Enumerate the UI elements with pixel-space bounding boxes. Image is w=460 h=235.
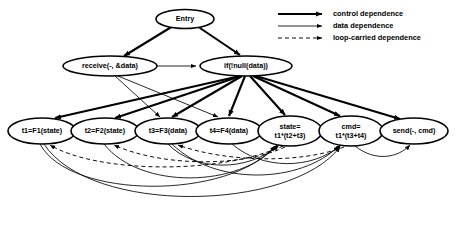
legend-item-data: data dependence bbox=[278, 21, 393, 30]
edge-cmd-send bbox=[355, 145, 410, 156]
edge-entry-if bbox=[197, 26, 240, 55]
edge-t1-cmd bbox=[44, 144, 340, 197]
node-t4-label: t4=F4(data) bbox=[210, 126, 249, 135]
node-t2[interactable]: t2=F2(state) bbox=[71, 118, 139, 144]
graph-canvas: Entryreceive(-, &data)if(!null(data))t1=… bbox=[0, 0, 460, 235]
node-send-label: send(-, cmd) bbox=[393, 126, 436, 135]
node-entry-label: Entry bbox=[176, 14, 194, 23]
node-t3-label: t3=F3(data) bbox=[149, 126, 188, 135]
node-state-label-line2: t1*(t2+t3) bbox=[275, 131, 307, 140]
dependence-graph: Entryreceive(-, &data)if(!null(data))t1=… bbox=[0, 0, 460, 235]
edge-receive-t4 bbox=[118, 76, 218, 117]
edges-loop-carried-layer bbox=[50, 145, 344, 167]
node-send[interactable]: send(-, cmd) bbox=[380, 118, 448, 144]
node-t3[interactable]: t3=F3(data) bbox=[135, 118, 201, 144]
node-cmd-label-line2: t1*(t3+t4) bbox=[336, 131, 368, 140]
node-cmd-label: cmd= bbox=[342, 122, 361, 131]
edge-if-t1 bbox=[55, 76, 240, 118]
node-t1[interactable]: t1=F1(state) bbox=[8, 118, 76, 144]
node-t4[interactable]: t4=F4(data) bbox=[196, 118, 262, 144]
edge-t4-cmd bbox=[232, 144, 341, 164]
legend-item-loop: loop-carried dependence bbox=[278, 33, 421, 42]
edge-if-send bbox=[256, 76, 400, 119]
legend: control dependencedata dependenceloop-ca… bbox=[278, 9, 421, 42]
edge-state-t1 bbox=[50, 145, 283, 167]
node-receive[interactable]: receive(-, &data) bbox=[63, 56, 157, 76]
edge-if-cmd bbox=[253, 76, 340, 116]
legend-label-control: control dependence bbox=[333, 9, 403, 18]
node-state-label: state= bbox=[280, 122, 301, 131]
node-receive-label: receive(-, &data) bbox=[82, 61, 139, 70]
node-if[interactable]: if(!null(data)) bbox=[200, 56, 292, 76]
node-t2-label: t2=F2(state) bbox=[85, 126, 126, 135]
node-if-label: if(!null(data)) bbox=[224, 61, 269, 70]
node-t1-label: t1=F1(state) bbox=[22, 126, 63, 135]
legend-label-loop: loop-carried dependence bbox=[333, 33, 421, 42]
node-cmd[interactable]: cmd=t1*(t3+t4) bbox=[319, 116, 383, 146]
node-state[interactable]: state=t1*(t2+t3) bbox=[258, 116, 322, 146]
legend-item-control: control dependence bbox=[278, 9, 403, 18]
edge-entry-receive bbox=[124, 26, 173, 56]
legend-label-data: data dependence bbox=[333, 21, 393, 30]
node-entry[interactable]: Entry bbox=[156, 10, 214, 29]
